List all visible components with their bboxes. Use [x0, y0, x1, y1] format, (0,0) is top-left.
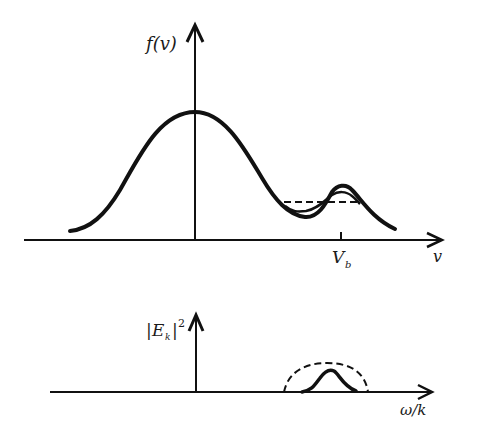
vb-subscript: b	[345, 259, 351, 270]
distribution-curve-initial	[70, 112, 395, 231]
omega-k-axis-label: ω/k	[400, 401, 426, 419]
bottom-panel: | E k | 2 ω/k	[50, 315, 432, 419]
ek2-axis-superscript: 2	[178, 317, 185, 330]
vb-label: V	[332, 247, 346, 267]
fv-axis-label: f(v)	[144, 33, 177, 54]
spectrum-dashed-curve	[284, 363, 368, 392]
ek2-axis-label-e: E	[151, 320, 165, 340]
top-panel: f(v) v V b	[24, 25, 442, 270]
v-axis-label: v	[433, 247, 442, 266]
ek2-axis-label: |	[146, 320, 152, 340]
ek2-axis-bar-right: |	[172, 320, 178, 340]
spectrum-solid-curve	[302, 370, 356, 392]
ek2-axis-subscript: k	[165, 332, 170, 342]
bump-on-tail-diagram: f(v) v V b | E k | 2 ω/k	[0, 0, 480, 437]
